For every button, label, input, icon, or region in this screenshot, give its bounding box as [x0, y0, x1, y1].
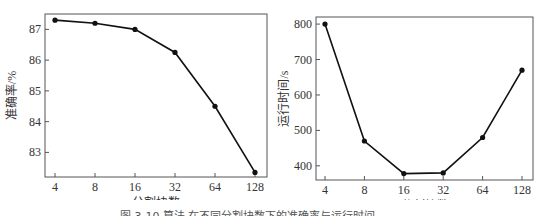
- series-line: [55, 20, 255, 172]
- data-point-marker: [519, 68, 524, 73]
- data-point-marker: [480, 135, 485, 140]
- plot-frame: [45, 14, 267, 177]
- data-point-marker: [252, 170, 257, 175]
- y-tick-label: 86: [29, 53, 41, 67]
- x-tick-label: 32: [437, 183, 449, 197]
- data-point-marker: [322, 21, 327, 26]
- y-tick-label: 87: [29, 22, 41, 36]
- x-tick-label: 64: [209, 180, 221, 194]
- data-point-marker: [441, 170, 446, 175]
- x-tick-label: 16: [129, 180, 141, 194]
- x-tick-label: 16: [398, 183, 410, 197]
- plot-frame: [316, 17, 533, 180]
- y-tick-label: 83: [29, 145, 41, 159]
- data-point-marker: [401, 171, 406, 176]
- x-tick-label: 128: [246, 180, 264, 194]
- accuracy-chart: 838485868748163264128分割块数准确率/%: [0, 0, 275, 204]
- y-tick-label: 84: [29, 115, 41, 129]
- data-point-marker: [92, 21, 97, 26]
- x-tick-label: 64: [477, 183, 489, 197]
- runtime-chart: 40050060070080048163264128分割块数运行时间/s: [272, 0, 547, 204]
- x-tick-label: 4: [322, 183, 328, 197]
- x-tick-label: 128: [513, 183, 531, 197]
- accuracy-chart-svg: 838485868748163264128分割块数准确率/%: [0, 0, 275, 200]
- x-tick-label: 32: [169, 180, 181, 194]
- x-axis-label: 分割块数: [132, 195, 180, 200]
- data-point-marker: [212, 104, 217, 109]
- y-axis-label: 运行时间/s: [277, 70, 291, 126]
- y-tick-label: 800: [294, 17, 312, 31]
- runtime-chart-svg: 40050060070080048163264128分割块数运行时间/s: [272, 0, 547, 200]
- y-axis-label: 准确率/%: [4, 71, 19, 120]
- data-point-marker: [172, 50, 177, 55]
- data-point-marker: [52, 18, 57, 23]
- y-tick-label: 400: [294, 159, 312, 173]
- y-tick-label: 600: [294, 88, 312, 102]
- data-point-marker: [362, 138, 367, 143]
- y-tick-label: 700: [294, 53, 312, 67]
- x-tick-label: 8: [92, 180, 98, 194]
- x-axis-label: 分割块数: [401, 198, 449, 200]
- data-point-marker: [132, 27, 137, 32]
- figure-caption: 图 3-10 算法 在不同分割块数下的准确率与运行时间: [120, 207, 375, 216]
- x-tick-label: 4: [52, 180, 58, 194]
- y-tick-label: 85: [29, 84, 41, 98]
- y-tick-label: 500: [294, 123, 312, 137]
- series-line: [325, 24, 522, 174]
- x-tick-label: 8: [361, 183, 367, 197]
